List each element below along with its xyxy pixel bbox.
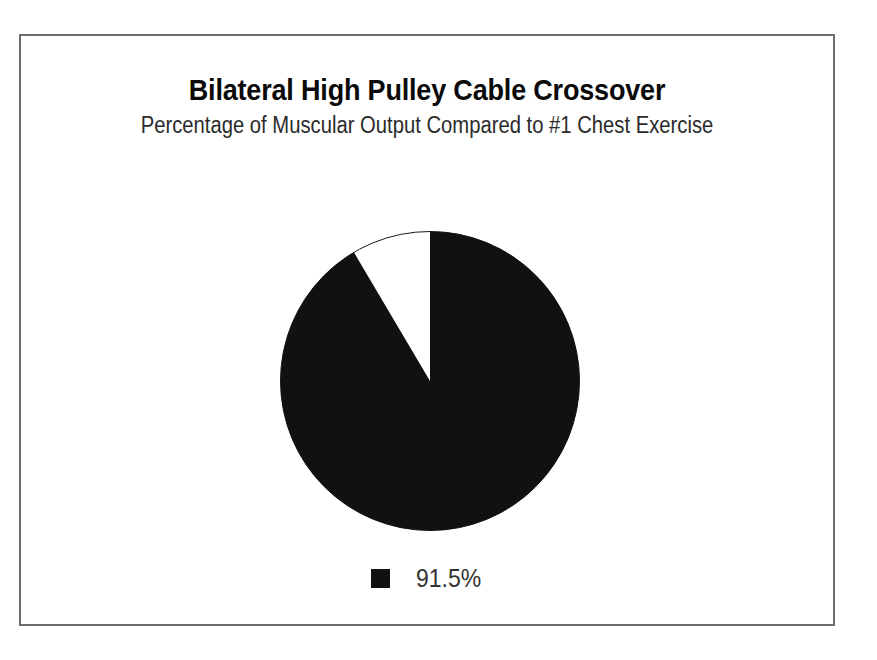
chart-title: Bilateral High Pulley Cable Crossover [62, 74, 793, 106]
pie-slice-primary [280, 232, 579, 531]
chart-frame: Bilateral High Pulley Cable Crossover Pe… [19, 34, 835, 626]
chart-legend: 91.5% [21, 564, 837, 593]
chart-header: Bilateral High Pulley Cable Crossover Pe… [21, 74, 833, 139]
chart-subtitle: Percentage of Muscular Output Compared t… [70, 113, 785, 138]
pie-slice-remainder [281, 232, 580, 531]
legend-item-label: 91.5% [416, 564, 481, 593]
legend-item[interactable]: 91.5% [371, 564, 487, 593]
legend-color-swatch-icon [371, 569, 390, 588]
pie-chart [280, 231, 580, 531]
